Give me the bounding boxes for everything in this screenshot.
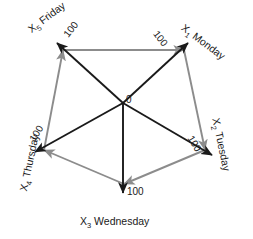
axis-line-friday [57, 43, 123, 103]
axis-line-monday [123, 43, 188, 103]
polygon-outline-group [44, 50, 205, 184]
polygon-edge-thursday-friday [44, 50, 63, 150]
axis-lines-group [35, 43, 212, 193]
polygon-edge-tuesday-wednesday [124, 150, 205, 184]
tick-label-wednesday: 100 [127, 187, 144, 197]
center-origin-label: 0 [126, 95, 132, 105]
polygon-edge-wednesday-thursday [44, 150, 124, 184]
axis-label-wednesday-sub: 3 [87, 221, 91, 230]
axis-label-wednesday: X3 Wednesday [80, 216, 149, 230]
radar-axes-figure: 0 100 100 100 100 100 X5 Friday X1 Monda… [0, 0, 253, 239]
axis-label-wednesday-day: Wednesday [94, 215, 149, 227]
axis-label-wednesday-var: X [80, 215, 87, 227]
axis-label-tuesday-sub: 2 [209, 125, 219, 131]
